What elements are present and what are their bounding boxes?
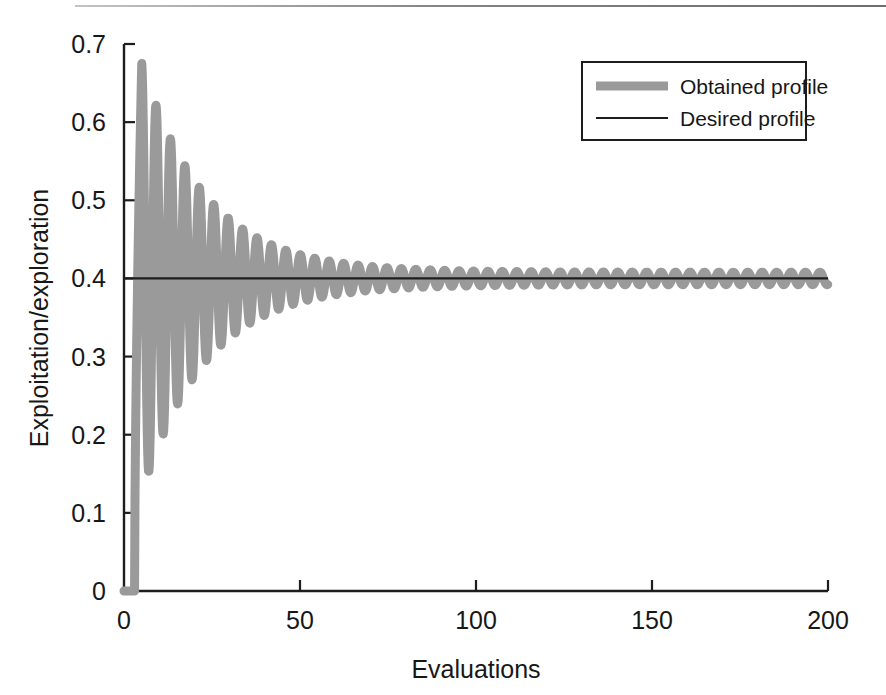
y-tick-label: 0	[92, 577, 106, 605]
x-tick-label: 150	[631, 606, 673, 634]
x-tick-label: 0	[117, 606, 131, 634]
y-tick-label: 0.4	[71, 264, 106, 292]
y-axis-tick-labels: 00.10.20.30.40.50.60.7	[71, 30, 106, 605]
x-tick-label: 200	[807, 606, 849, 634]
legend-label-desired-profile: Desired profile	[680, 107, 815, 130]
series-obtained-profile	[124, 64, 828, 591]
x-axis-title: Evaluations	[411, 655, 540, 683]
x-axis-ticks	[300, 580, 828, 591]
y-tick-label: 0.6	[71, 108, 106, 136]
legend: Obtained profile Desired profile	[582, 62, 828, 140]
y-tick-label: 0.5	[71, 186, 106, 214]
legend-label-obtained-profile: Obtained profile	[680, 75, 828, 98]
chart-canvas: 00.10.20.30.40.50.60.7 050100150200 Eval…	[0, 0, 886, 695]
x-axis-tick-labels: 050100150200	[117, 606, 849, 634]
y-tick-label: 0.1	[71, 499, 106, 527]
y-axis-title: Exploitation/exploration	[25, 189, 53, 448]
y-tick-label: 0.7	[71, 30, 106, 58]
figure-container: 00.10.20.30.40.50.60.7 050100150200 Eval…	[0, 0, 886, 695]
x-tick-label: 100	[455, 606, 497, 634]
y-tick-label: 0.3	[71, 343, 106, 371]
y-tick-label: 0.2	[71, 421, 106, 449]
x-tick-label: 50	[286, 606, 314, 634]
